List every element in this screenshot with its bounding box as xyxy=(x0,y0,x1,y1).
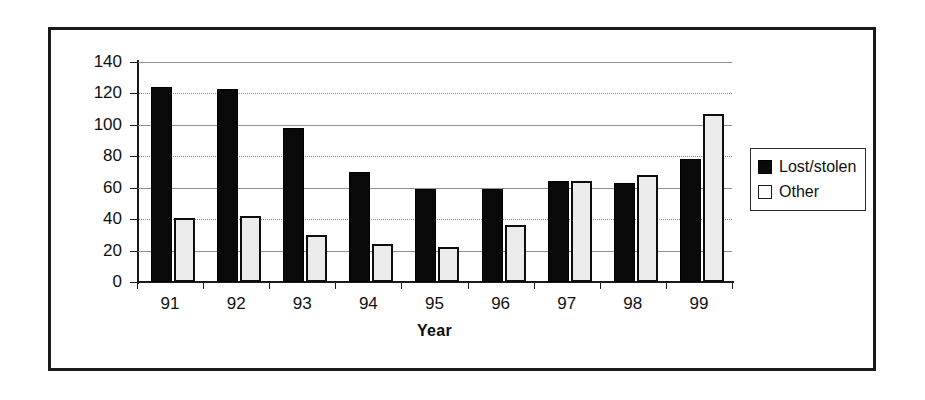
x-axis-tick xyxy=(137,282,138,289)
bar-other-92[interactable] xyxy=(240,216,261,282)
bar-lost-stolen-93[interactable] xyxy=(283,128,304,282)
y-axis-labels: 140120100806040200 xyxy=(60,0,122,400)
y-axis-tick-label: 20 xyxy=(60,242,122,259)
x-axis-tick xyxy=(732,282,733,289)
y-axis-tick xyxy=(130,93,138,94)
x-axis-tick xyxy=(335,282,336,289)
bar-lost-stolen-94[interactable] xyxy=(349,172,370,282)
x-axis-tick-label: 99 xyxy=(669,294,729,314)
bar-other-93[interactable] xyxy=(306,235,327,282)
plot-area xyxy=(137,62,732,282)
y-axis-tick xyxy=(130,156,138,157)
bar-lost-stolen-91[interactable] xyxy=(151,87,172,282)
bar-other-94[interactable] xyxy=(372,244,393,282)
legend-swatch-icon xyxy=(758,185,772,199)
y-axis-tick xyxy=(130,125,138,126)
legend-swatch-icon xyxy=(758,160,772,174)
x-axis-tick-label: 92 xyxy=(206,294,266,314)
y-axis-tick-label: 80 xyxy=(60,147,122,164)
y-axis-tick-label: 100 xyxy=(60,116,122,133)
y-axis-tick xyxy=(130,62,138,63)
bar-lost-stolen-92[interactable] xyxy=(217,89,238,282)
bar-lost-stolen-98[interactable] xyxy=(614,183,635,282)
x-axis-tick-label: 98 xyxy=(603,294,663,314)
bar-other-95[interactable] xyxy=(438,247,459,282)
y-axis-tick-label: 140 xyxy=(60,53,122,70)
x-axis-tick xyxy=(666,282,667,289)
bar-lost-stolen-99[interactable] xyxy=(680,159,701,282)
bar-lost-stolen-97[interactable] xyxy=(548,181,569,282)
y-axis-tick xyxy=(130,188,138,189)
bar-other-98[interactable] xyxy=(637,175,658,282)
x-axis-tick-label: 91 xyxy=(140,294,200,314)
x-axis-tick xyxy=(269,282,270,289)
y-axis-tick xyxy=(130,219,138,220)
bar-lost-stolen-96[interactable] xyxy=(482,189,503,282)
x-axis-tick xyxy=(468,282,469,289)
x-axis-tick-label: 96 xyxy=(471,294,531,314)
x-axis-tick-label: 93 xyxy=(272,294,332,314)
y-axis-tick-label: 120 xyxy=(60,84,122,101)
legend-item-other[interactable]: Other xyxy=(758,179,859,204)
bar-other-91[interactable] xyxy=(174,218,195,282)
y-axis-tick-label: 0 xyxy=(60,273,122,290)
chart-legend: Lost/stolen Other xyxy=(750,148,866,211)
x-axis-tick xyxy=(600,282,601,289)
x-axis-tick-label: 95 xyxy=(405,294,465,314)
x-axis-tick xyxy=(534,282,535,289)
y-axis-tick-label: 60 xyxy=(60,179,122,196)
y-axis-tick xyxy=(130,251,138,252)
bar-lost-stolen-95[interactable] xyxy=(415,189,436,282)
bar-other-99[interactable] xyxy=(703,114,724,282)
legend-item-label: Lost/stolen xyxy=(779,158,856,176)
y-axis-tick-label: 40 xyxy=(60,210,122,227)
x-axis-title: Year xyxy=(137,322,732,340)
bar-other-96[interactable] xyxy=(505,225,526,282)
x-axis-tick xyxy=(401,282,402,289)
legend-item-lost-stolen[interactable]: Lost/stolen xyxy=(758,154,859,179)
bar-other-97[interactable] xyxy=(571,181,592,282)
x-axis-tick-label: 94 xyxy=(338,294,398,314)
x-axis-tick xyxy=(203,282,204,289)
grid-line xyxy=(137,62,732,63)
legend-item-label: Other xyxy=(779,183,819,201)
x-axis-tick-label: 97 xyxy=(537,294,597,314)
